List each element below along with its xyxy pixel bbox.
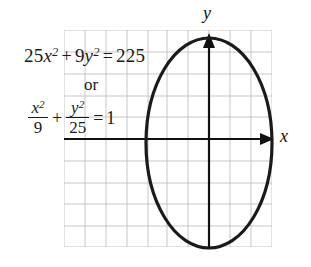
coordinate-plane-svg <box>0 0 311 267</box>
ellipse-graph-figure: 25x2+9y2=225 or x2 9 + y2 25 = 1 y x <box>0 0 311 267</box>
